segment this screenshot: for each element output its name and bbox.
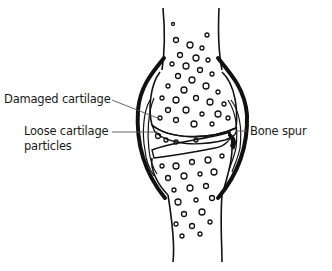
label-bone-spur: Bone spur [250,124,306,139]
joint-capsule [138,58,247,198]
trabecular-bone-pores [156,23,231,239]
label-loose-cartilage-particles-line1: Loose cartilage [24,124,108,139]
label-loose-cartilage-particles-line2: particles [24,139,72,154]
label-damaged-cartilage: Damaged cartilage [4,92,111,107]
